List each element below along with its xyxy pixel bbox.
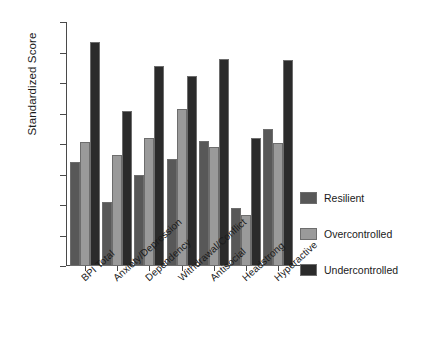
bar[interactable]: [134, 175, 144, 267]
bar[interactable]: [263, 129, 273, 266]
bar-chart: Standardized Score 969810010210410610811…: [0, 0, 422, 360]
bar-group: [102, 22, 132, 266]
y-tick-mark: [60, 114, 66, 115]
y-tick-mark: [60, 266, 66, 267]
legend-item[interactable]: Overcontrolled: [300, 226, 420, 241]
bar[interactable]: [167, 159, 177, 267]
y-tick-mark: [60, 53, 66, 54]
bar[interactable]: [144, 138, 154, 266]
x-tick-mark: [278, 266, 279, 271]
legend-item[interactable]: Resilient: [300, 190, 420, 205]
x-tick-mark: [246, 266, 247, 271]
plot-area: [66, 22, 291, 266]
bar[interactable]: [219, 59, 229, 266]
bar[interactable]: [231, 208, 241, 266]
legend-swatch-icon: [300, 192, 317, 204]
y-tick-mark: [60, 205, 66, 206]
bar[interactable]: [112, 155, 122, 266]
bar[interactable]: [70, 162, 80, 266]
x-tick-mark: [85, 266, 86, 271]
x-tick-mark: [117, 266, 118, 271]
bar[interactable]: [209, 147, 219, 266]
x-tick-mark: [182, 266, 183, 271]
bar[interactable]: [283, 60, 293, 266]
bar-group: [70, 22, 100, 266]
y-tick-mark: [60, 83, 66, 84]
bar[interactable]: [122, 111, 132, 266]
y-axis-line: [66, 22, 67, 266]
bar[interactable]: [80, 142, 90, 266]
y-tick-mark: [60, 175, 66, 176]
y-tick-mark: [60, 144, 66, 145]
bar-group: [199, 22, 229, 266]
legend-label: Overcontrolled: [324, 228, 392, 240]
legend-swatch-icon: [300, 228, 317, 240]
legend: ResilientOvercontrolledUndercontrolled: [300, 190, 420, 298]
bar-group: [167, 22, 197, 266]
x-tick-mark: [149, 266, 150, 271]
bar[interactable]: [154, 66, 164, 266]
legend-swatch-icon: [300, 264, 317, 276]
bar[interactable]: [273, 143, 283, 266]
y-tick-mark: [60, 22, 66, 23]
bar[interactable]: [241, 215, 251, 266]
bar[interactable]: [187, 76, 197, 266]
y-axis-title: Standardized Score: [26, 0, 38, 174]
legend-label: Undercontrolled: [324, 264, 398, 276]
bar-group: [134, 22, 164, 266]
x-tick-mark: [214, 266, 215, 271]
bar[interactable]: [90, 42, 100, 266]
y-tick-mark: [60, 236, 66, 237]
bar-group: [263, 22, 293, 266]
legend-item[interactable]: Undercontrolled: [300, 262, 420, 277]
bar[interactable]: [251, 138, 261, 266]
bar[interactable]: [177, 109, 187, 266]
bar[interactable]: [199, 141, 209, 266]
bar-group: [231, 22, 261, 266]
bar[interactable]: [102, 202, 112, 266]
legend-label: Resilient: [324, 192, 364, 204]
